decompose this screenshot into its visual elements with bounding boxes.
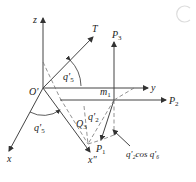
dashed-guide	[43, 62, 60, 98]
label-annotation: q'₂cos q'₆	[126, 149, 159, 159]
label-p1: P1	[95, 143, 106, 156]
label-q2: q'2	[88, 111, 99, 124]
x-axis	[9, 88, 43, 151]
dashed-guide	[114, 88, 134, 100]
annotation-pointer	[113, 130, 130, 146]
label-q5-lower: q'5	[34, 122, 45, 135]
label-q5-upper: q'5	[63, 71, 74, 84]
dashed-guide	[101, 135, 114, 140]
dashed-guide	[60, 98, 88, 144]
decorative-circle-icon	[177, 6, 190, 22]
label-x-double-prime: x"	[87, 154, 97, 165]
label-x: x	[6, 153, 12, 164]
angle-arc-q5-lower	[30, 110, 60, 115]
label-p3: P3	[111, 29, 122, 42]
dashed-guide	[88, 100, 114, 144]
label-y: y	[150, 82, 156, 93]
label-t: T	[92, 23, 99, 34]
label-z: z	[32, 14, 37, 25]
p1-axis	[101, 100, 114, 140]
label-o-prime: O'	[29, 86, 39, 97]
label-p2: P2	[168, 95, 179, 108]
coordinate-diagram: z T O' y x x" P3 P2 P1 m1 Q3 q'5 q'5 q'2…	[0, 0, 196, 182]
